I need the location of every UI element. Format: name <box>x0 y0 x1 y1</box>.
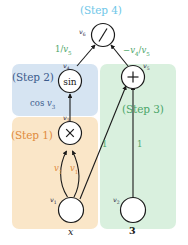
edge-label-add-left: 1 <box>102 139 107 149</box>
region-label-step4: (Step 4) <box>80 4 122 16</box>
node-label-v4: v4 <box>63 62 70 71</box>
edge-label-mul-left: v1 <box>54 163 62 175</box>
node-sin-op-label: sin <box>63 77 76 87</box>
node-label-v6: v6 <box>79 28 86 37</box>
node-label-v3: v3 <box>63 114 70 123</box>
graph-svg: sin <box>0 0 188 245</box>
region-label-step3: (Step 3) <box>122 103 164 115</box>
edge-label-sin: cos v3 <box>30 98 55 110</box>
edge-label-mul-right: v1 <box>70 163 78 175</box>
edge-label-div-right: −v4/v5 <box>123 45 150 57</box>
diagram-canvas: sin (Step 4) (Step 2) (Step 1) (Step 3) … <box>0 0 188 245</box>
region-label-step1: (Step 1) <box>11 129 53 141</box>
edge-label-div-left: 1/v5 <box>55 44 72 56</box>
leaf-name-3: 3 <box>129 225 136 236</box>
edge-label-add-right: 1 <box>137 139 142 149</box>
edge-sin-to-div <box>77 45 95 66</box>
node-constant-3[interactable] <box>121 198 146 223</box>
leaf-name-x: x <box>68 226 73 237</box>
node-label-v2: v2 <box>113 196 120 205</box>
node-input-x[interactable] <box>59 198 84 223</box>
region-label-step2: (Step 2) <box>12 71 54 83</box>
node-label-v1: v1 <box>50 196 57 205</box>
node-label-v5: v5 <box>143 62 150 71</box>
